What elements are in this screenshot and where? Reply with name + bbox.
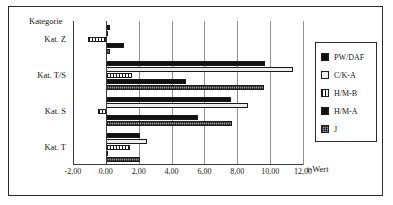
category-axis-title: Kategorie [29, 16, 63, 26]
bar-h-m-a-kat-z [106, 43, 124, 48]
category-label-kat-t-s: Kat. T/S [8, 70, 66, 80]
legend-entry-h-m-a[interactable]: H/M-A [321, 102, 376, 120]
legend-entry-j[interactable]: J [321, 120, 376, 138]
gridline-8 [237, 21, 238, 165]
bar-h-m-a-kat-t-s [106, 79, 187, 84]
legend-entry-h-m-b[interactable]: H/M-B [321, 84, 376, 102]
x-tick-label: 0,00 [99, 167, 113, 176]
x-tick-label: 6,00 [197, 167, 211, 176]
gridline-0 [106, 21, 107, 165]
legend-label: PW/DAF [334, 53, 364, 62]
legend-label: C/K-A [334, 71, 356, 80]
bar-pw-daf-kat-s [106, 97, 231, 102]
category-label-kat-s: Kat. S [8, 106, 66, 116]
x-tick-label: 2,00 [132, 167, 146, 176]
category-label-kat-z: Kat. Z [8, 34, 66, 44]
bar-h-m-b-kat-z [88, 37, 106, 42]
chart-legend: PW/DAFC/K-AH/M-BH/M-AJ [315, 42, 377, 142]
legend-swatch-icon [321, 89, 329, 97]
legend-label: H/M-B [334, 89, 357, 98]
bar-pw-daf-kat-t-s [106, 61, 265, 66]
bar-j-kat-s [106, 121, 233, 126]
gridline-12 [303, 21, 304, 165]
bar-c-k-a-kat-t [106, 139, 147, 144]
x-tick-label: 8,00 [230, 167, 244, 176]
x-tick-label: 10,00 [261, 167, 279, 176]
gridline-6 [204, 21, 205, 165]
bar-pw-daf-kat-t [106, 133, 141, 138]
category-label-kat-t: Kat. T [8, 142, 66, 152]
bar-h-m-a-kat-s [106, 115, 198, 120]
legend-swatch-icon [321, 125, 329, 133]
bar-h-m-b-kat-s [98, 109, 106, 114]
gridline-10 [270, 21, 271, 165]
legend-swatch-icon [321, 107, 329, 115]
chart-frame: Kategorie t-Wert Kat. ZKat. T/SKat. SKat… [8, 6, 383, 196]
bar-c-k-a-kat-s [106, 103, 248, 108]
category-axis-line [73, 21, 74, 165]
legend-label: J [334, 125, 337, 134]
legend-swatch-icon [321, 53, 329, 61]
legend-entry-pw-daf[interactable]: PW/DAF [321, 48, 376, 66]
bar-j-kat-t-s [106, 85, 265, 90]
bar-j-kat-t [106, 157, 141, 162]
legend-swatch-icon [321, 71, 329, 79]
plot-area [73, 21, 303, 165]
value-axis-line [73, 164, 303, 165]
bar-h-m-b-kat-t [106, 145, 131, 150]
x-tick-label: 4,00 [165, 167, 179, 176]
gridline-4 [172, 21, 173, 165]
bar-h-m-b-kat-t-s [106, 73, 132, 78]
x-tick-label: 12,00 [294, 167, 312, 176]
legend-entry-c-k-a[interactable]: C/K-A [321, 66, 376, 84]
bar-c-k-a-kat-t-s [106, 67, 293, 72]
legend-label: H/M-A [334, 107, 358, 116]
x-tick-label: -2,00 [65, 167, 82, 176]
